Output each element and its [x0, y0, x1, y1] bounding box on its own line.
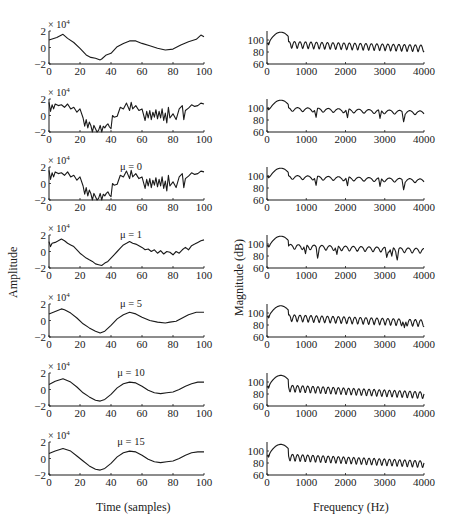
- panel-right-6: 010002000300040006080100: [248, 442, 436, 488]
- data-series-line: [267, 444, 424, 467]
- data-series-line: [267, 236, 424, 260]
- x-tick-label: 0: [264, 65, 270, 77]
- mu-annotation: μ = 10: [117, 367, 144, 378]
- data-series-line: [49, 102, 204, 132]
- y-tick-label: 100: [248, 170, 265, 182]
- x-tick-label: 0: [264, 476, 270, 488]
- x-tick-label: 2000: [335, 338, 358, 350]
- x-tick-label: 3000: [374, 269, 397, 281]
- y-tick-label: 100: [248, 445, 265, 457]
- y-tick-label: 80: [253, 114, 265, 126]
- y-tick-label: 80: [253, 319, 265, 331]
- y-tick-label: 0: [41, 178, 47, 190]
- x-tick-label: 40: [106, 269, 118, 281]
- y-tick-label: −2: [34, 126, 46, 138]
- y-tick-label: 60: [253, 58, 265, 70]
- exponent-label: × 104: [48, 154, 70, 166]
- panel-left-2: 020406080100−202× 104μ = 0: [34, 154, 212, 213]
- x-tick-label: 60: [137, 338, 149, 350]
- y-tick-label: −2: [34, 262, 46, 274]
- x-tick-label: 60: [137, 201, 149, 213]
- x-tick-label: 80: [168, 65, 180, 77]
- x-tick-label: 40: [106, 407, 118, 419]
- y-tick-label: 80: [253, 182, 265, 194]
- x-tick-label: 4000: [413, 133, 436, 145]
- x-tick-label: 20: [75, 201, 87, 213]
- y-tick-label: 0: [41, 246, 47, 258]
- x-tick-label: 0: [46, 338, 52, 350]
- data-series-line: [49, 170, 204, 200]
- x-tick-label: 40: [106, 338, 118, 350]
- panel-left-6: 020406080100−202× 104μ = 15: [34, 429, 212, 488]
- y-tick-label: 2: [41, 436, 47, 448]
- x-tick-label: 20: [75, 476, 87, 488]
- x-tick-label: 20: [75, 338, 87, 350]
- x-tick-label: 3000: [374, 338, 397, 350]
- y-tick-label: 0: [41, 315, 47, 327]
- exponent-label: × 104: [48, 222, 70, 234]
- x-tick-label: 4000: [413, 476, 436, 488]
- panel-left-0: 020406080100−202× 104: [34, 18, 212, 77]
- x-tick-label: 2000: [335, 65, 358, 77]
- y-tick-label: 2: [41, 229, 47, 241]
- x-tick-label: 40: [106, 476, 118, 488]
- data-series-line: [267, 100, 424, 122]
- y-tick-label: 60: [253, 262, 265, 274]
- x-tick-label: 80: [168, 201, 180, 213]
- frequency-axis-label: Frequency (Hz): [313, 500, 389, 515]
- x-tick-label: 0: [46, 201, 52, 213]
- x-tick-label: 2000: [335, 133, 358, 145]
- x-tick-label: 0: [46, 407, 52, 419]
- x-tick-label: 4000: [413, 338, 436, 350]
- data-series-line: [267, 32, 424, 52]
- x-tick-label: 0: [264, 407, 270, 419]
- x-tick-label: 60: [137, 407, 149, 419]
- panel-left-5: 020406080100−202× 104μ = 10: [34, 360, 212, 419]
- data-series-line: [49, 309, 204, 333]
- panel-left-1: 020406080100−202× 104: [34, 86, 212, 145]
- x-tick-label: 4000: [413, 201, 436, 213]
- panel-right-1: 010002000300040006080100: [248, 99, 436, 145]
- x-tick-label: 20: [75, 407, 87, 419]
- x-tick-label: 0: [264, 269, 270, 281]
- y-tick-label: 2: [41, 161, 47, 173]
- time-axis-label: Time (samples): [96, 500, 171, 515]
- x-tick-label: 20: [75, 65, 87, 77]
- y-tick-label: 80: [253, 388, 265, 400]
- panel-right-4: 010002000300040006080100: [248, 304, 436, 350]
- data-series-line: [267, 168, 424, 190]
- x-tick-label: 100: [196, 269, 213, 281]
- x-tick-label: 80: [168, 407, 180, 419]
- x-tick-label: 100: [196, 65, 213, 77]
- x-tick-label: 100: [196, 476, 213, 488]
- x-tick-label: 2000: [335, 476, 358, 488]
- x-tick-label: 4000: [413, 269, 436, 281]
- panel-left-3: 020406080100−202× 104μ = 1: [34, 222, 212, 281]
- y-tick-label: 100: [248, 102, 265, 114]
- x-tick-label: 0: [264, 338, 270, 350]
- x-tick-label: 0: [46, 476, 52, 488]
- y-tick-label: 0: [41, 384, 47, 396]
- magnitude-label: Magnitude (dB): [232, 239, 247, 316]
- left-y-axis-label: Amplitude: [4, 236, 24, 296]
- y-tick-label: 60: [253, 194, 265, 206]
- x-tick-label: 4000: [413, 65, 436, 77]
- y-tick-label: 60: [253, 331, 265, 343]
- y-tick-label: 2: [41, 25, 47, 37]
- x-tick-label: 1000: [295, 65, 318, 77]
- data-series-line: [49, 34, 204, 60]
- x-tick-label: 80: [168, 338, 180, 350]
- y-tick-label: 60: [253, 469, 265, 481]
- y-tick-label: 60: [253, 400, 265, 412]
- y-tick-label: 60: [253, 126, 265, 138]
- x-tick-label: 20: [75, 133, 87, 145]
- y-tick-label: 2: [41, 367, 47, 379]
- x-tick-label: 80: [168, 269, 180, 281]
- panel-left-4: 020406080100−202× 104μ = 5: [34, 291, 212, 350]
- x-tick-label: 3000: [374, 476, 397, 488]
- mu-annotation: μ = 5: [120, 298, 142, 309]
- x-tick-label: 100: [196, 201, 213, 213]
- x-tick-label: 0: [46, 133, 52, 145]
- y-tick-label: −2: [34, 331, 46, 343]
- data-series-line: [267, 375, 424, 398]
